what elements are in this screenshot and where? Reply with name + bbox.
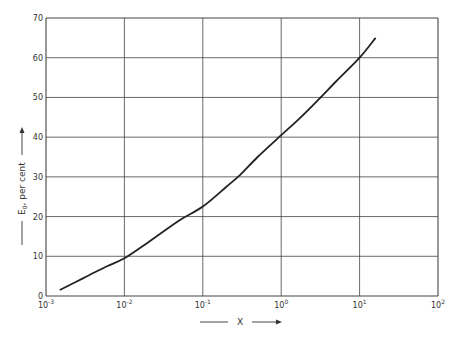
x-tick-label: 10-2: [116, 298, 132, 310]
y-axis-title: E0, per cent: [17, 162, 28, 215]
y-tick-label: 40: [33, 133, 43, 142]
x-axis-label: X: [200, 317, 282, 327]
x-axis-title: X: [237, 317, 243, 327]
y-tick-label: 10: [33, 252, 43, 261]
y-tick-label: 0: [38, 292, 43, 301]
chart: 01020304050607010-310-210-1100101102 X E…: [0, 0, 461, 338]
y-tick-label: 60: [33, 54, 43, 63]
y-tick-label: 20: [33, 213, 43, 222]
y-tick-label: 30: [33, 173, 43, 182]
arrow-up-icon: [20, 127, 25, 133]
y-axis-label: E0, per cent: [17, 127, 28, 245]
grid: [46, 18, 438, 296]
data-line: [60, 38, 376, 290]
x-tick-label: 101: [353, 298, 367, 310]
x-tick-label: 102: [431, 298, 445, 310]
x-tick-label: 10-1: [195, 298, 211, 310]
y-tick-label: 70: [33, 14, 43, 23]
y-tick-label: 50: [33, 93, 43, 102]
x-tick-label: 100: [274, 298, 288, 310]
arrow-right-icon: [276, 320, 282, 325]
tick-labels: 01020304050607010-310-210-1100101102: [33, 14, 445, 310]
